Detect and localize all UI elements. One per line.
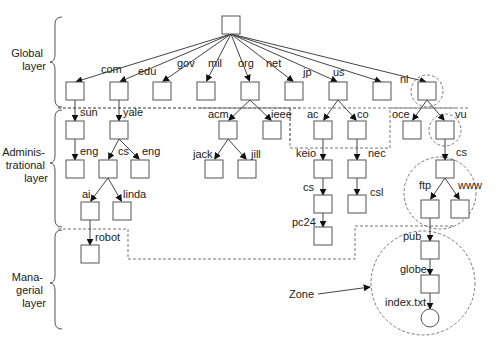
edge-root-nl <box>231 34 426 82</box>
edge-acm-jill <box>228 139 246 159</box>
node-ai <box>81 202 99 220</box>
node-yale <box>110 121 128 139</box>
label-jack: jack <box>192 148 213 160</box>
label-eng2: eng <box>142 145 160 157</box>
node-www <box>451 200 469 218</box>
label-eng1: eng <box>80 145 98 157</box>
administrational-layer-brace <box>50 110 62 227</box>
node-jp <box>329 82 347 100</box>
node-ftp <box>421 200 439 218</box>
node-csl <box>348 195 366 213</box>
label-ai: ai <box>82 188 91 200</box>
node-root <box>222 16 240 34</box>
label-cs2: cs <box>303 181 315 193</box>
node-net <box>285 82 303 100</box>
node-jill <box>238 160 256 178</box>
label-pc24: pc24 <box>292 216 316 228</box>
administrational-layer-label: Adminis- trational layer <box>2 146 48 184</box>
global-layer-brace <box>50 17 62 107</box>
edge-jp-co <box>338 100 356 120</box>
managerial-layer-label: Mana- gerial layer <box>12 271 47 309</box>
edge-nl-vu <box>427 100 444 120</box>
edge-jp-ac <box>324 100 338 120</box>
node-nl <box>418 82 436 100</box>
node-cs2 <box>314 195 332 213</box>
node-ac <box>314 121 332 139</box>
node-vu <box>436 121 454 139</box>
label-yale: yale <box>123 106 143 118</box>
label-sun: sun <box>80 106 98 118</box>
layer-labels: Global layer Adminis- trational layer Ma… <box>2 47 48 309</box>
node-us <box>373 82 391 100</box>
label-com: com <box>101 63 122 75</box>
label-cs1: cs <box>118 145 130 157</box>
label-linda: linda <box>123 188 147 200</box>
node-globe <box>421 275 439 293</box>
label-us: us <box>333 66 345 78</box>
label-vu: vu <box>455 108 467 120</box>
node-acm <box>219 121 237 139</box>
node-gov <box>153 82 171 100</box>
node-cs1 <box>99 160 117 178</box>
label-csl: csl <box>370 186 383 198</box>
zone-annotation-label: Zone <box>289 288 314 300</box>
node-linda <box>113 202 131 220</box>
edge-acm-jack <box>215 139 228 159</box>
node-pc24 <box>314 227 332 245</box>
label-nec: nec <box>368 147 386 159</box>
label-mil: mil <box>208 57 222 69</box>
label-co: co <box>357 108 369 120</box>
edge-org-acm <box>229 100 250 120</box>
edge-cs3-ftp <box>431 178 445 199</box>
label-cs3: cs <box>456 146 468 158</box>
managerial-layer-brace <box>50 230 62 329</box>
label-oce: oce <box>392 108 410 120</box>
global-layer-label: Global layer <box>11 47 46 72</box>
node-eng2 <box>131 160 149 178</box>
label-www: www <box>457 179 482 191</box>
label-ieee: ieee <box>271 108 292 120</box>
node-pub <box>421 241 439 259</box>
node-org <box>241 82 259 100</box>
node-nec <box>348 160 366 178</box>
label-net: net <box>266 57 281 69</box>
edge-cs1-ai <box>91 178 108 201</box>
edge-org-ieee <box>250 100 271 120</box>
node-index <box>421 309 439 327</box>
label-ac: ac <box>307 108 319 120</box>
label-keio: keio <box>296 147 316 159</box>
label-index: index.txt <box>385 296 426 308</box>
label-jill: jill <box>250 148 261 160</box>
label-edu: edu <box>138 65 156 77</box>
node-ieee <box>263 121 281 139</box>
node-eng1 <box>66 160 84 178</box>
node-edu <box>110 82 128 100</box>
node-oce <box>403 121 421 139</box>
layer-braces <box>50 17 62 329</box>
node-co <box>348 121 366 139</box>
node-cs3 <box>436 160 454 178</box>
label-jp: jp <box>302 66 312 78</box>
zone-annotation-arrow <box>318 287 370 294</box>
label-nl: nl <box>400 73 409 85</box>
node-com <box>66 82 84 100</box>
label-org: org <box>238 57 254 69</box>
node-robot <box>81 245 99 263</box>
dns-namespace-diagram: Global layer Adminis- trational layer Ma… <box>0 0 497 344</box>
label-globe: globe <box>400 263 427 275</box>
label-gov: gov <box>177 57 195 69</box>
edge-nl-oce <box>413 100 427 120</box>
zone-annotation: Zone <box>289 287 370 300</box>
node-jack <box>205 160 223 178</box>
node-keio <box>314 160 332 178</box>
edge-cs1-linda <box>108 178 121 201</box>
node-mil <box>197 82 215 100</box>
label-pub: pub <box>403 230 421 242</box>
label-robot: robot <box>95 231 120 243</box>
node-sun <box>66 121 84 139</box>
label-ftp: ftp <box>419 179 431 191</box>
label-acm: acm <box>208 108 229 120</box>
